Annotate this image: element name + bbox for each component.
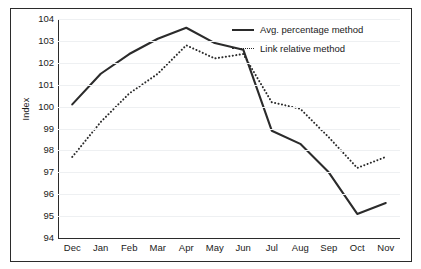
- y-axis-tick: 95: [8, 211, 54, 221]
- legend-item[interactable]: Avg. percentage method: [232, 20, 402, 39]
- y-axis-tick: 102: [8, 58, 54, 68]
- gridline: [58, 172, 400, 173]
- y-axis-tick: 104: [8, 14, 54, 24]
- x-axis-tick-labels: DecJanFebMarAprMayJunJulAugSepOctNov: [58, 243, 400, 257]
- gridline: [58, 85, 400, 86]
- x-axis-tick: Nov: [366, 243, 406, 253]
- y-axis-tick: 103: [8, 36, 54, 46]
- gridline: [58, 107, 400, 108]
- y-axis-tick: 96: [8, 189, 54, 199]
- x-axis-line: [58, 238, 400, 239]
- gridline: [58, 216, 400, 217]
- chart-legend: Avg. percentage methodLink relative meth…: [232, 20, 402, 58]
- y-axis-tick: 100: [8, 102, 54, 112]
- solid-line-swatch-icon: [232, 25, 254, 35]
- y-axis-tick: 98: [8, 145, 54, 155]
- y-axis-tick: 94: [8, 233, 54, 243]
- y-axis-tick: 97: [8, 167, 54, 177]
- legend-label: Avg. percentage method: [260, 24, 363, 35]
- y-axis-tick: 101: [8, 80, 54, 90]
- gridline: [58, 150, 400, 151]
- gridline: [58, 194, 400, 195]
- y-axis-tick-labels: 949596979899100101102103104: [8, 19, 54, 239]
- gridline: [58, 129, 400, 130]
- legend-item[interactable]: Link relative method: [232, 39, 402, 58]
- gridline: [58, 63, 400, 64]
- chart-figure: Index 949596979899100101102103104 DecJan…: [0, 0, 421, 269]
- dotted-line-swatch-icon: [232, 44, 254, 54]
- legend-label: Link relative method: [260, 43, 345, 54]
- y-axis-tick: 99: [8, 124, 54, 134]
